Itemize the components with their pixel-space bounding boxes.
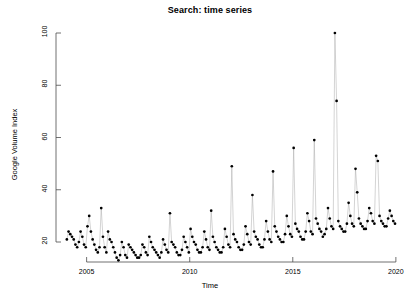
- plot-canvas: [0, 0, 420, 297]
- data-points: [66, 32, 397, 262]
- axis-lines: [56, 33, 396, 262]
- data-stems: [67, 33, 395, 260]
- chart-figure: Search: time series Google Volume Index …: [0, 0, 420, 297]
